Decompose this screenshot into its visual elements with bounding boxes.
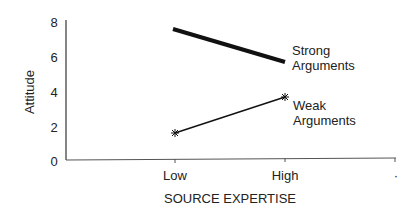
x-end-dot: · [394, 168, 398, 183]
y-tick-label: 6 [50, 50, 57, 65]
series-strong-label-2: Arguments [292, 58, 355, 73]
y-tick-label: 0 [50, 154, 57, 169]
y-tick-label: 2 [50, 120, 57, 135]
series-weak-label-2: Arguments [293, 113, 356, 128]
y-tick-label: 4 [50, 85, 57, 100]
series-weak-label-1: Weak [293, 98, 326, 113]
asterisk-marker-icon [281, 93, 289, 101]
chart: 8 6 4 2 0 Attitude Low High · SOURCE EXP… [0, 0, 415, 218]
series-strong-line [173, 29, 285, 62]
y-axis-title: Attitude [22, 70, 37, 114]
series-strong-label-1: Strong [292, 43, 330, 58]
asterisk-marker-icon [171, 129, 179, 137]
series-weak-line [175, 97, 285, 133]
x-tick-label-high: High [272, 168, 299, 183]
y-tick-label: 8 [50, 15, 57, 30]
x-tick-label-low: Low [163, 168, 187, 183]
x-axis-title: SOURCE EXPERTISE [164, 191, 296, 206]
x-axis [66, 158, 396, 160]
